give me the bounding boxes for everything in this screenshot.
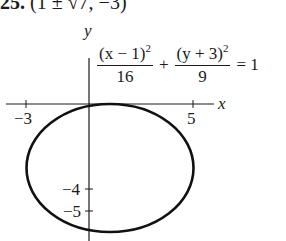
y-tick-label-neg4: −4	[62, 181, 80, 198]
equals-one: = 1	[236, 55, 258, 75]
y-term-denominator: 9	[198, 66, 207, 87]
fraction-x-term: (x − 1)2 16	[97, 42, 153, 87]
fraction-y-term: (y + 3)2 9	[175, 42, 231, 87]
x-tick-label-neg3: −3	[14, 110, 32, 127]
x-tick-label-5: 5	[187, 110, 196, 127]
x-term-denominator: 16	[116, 66, 133, 87]
plus-sign: +	[159, 55, 169, 75]
y-term-numerator: (y + 3)	[177, 44, 223, 63]
x-axis-label: x	[218, 95, 226, 112]
ellipse-curve	[27, 104, 194, 232]
y-axis-label: y	[84, 22, 92, 39]
y-tick-label-neg5: −5	[63, 203, 81, 220]
x-term-numerator: (x − 1)	[99, 44, 145, 63]
y-term-exponent: 2	[223, 42, 229, 54]
x-term-exponent: 2	[145, 42, 151, 54]
ellipse-equation: (x − 1)2 16 + (y + 3)2 9 = 1	[97, 42, 265, 87]
ellipse-graph	[0, 0, 286, 241]
